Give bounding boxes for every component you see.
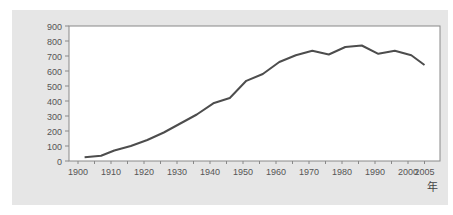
x-tick-label: 1970	[299, 167, 319, 177]
y-tick-label: 200	[47, 127, 62, 137]
y-tick-label: 500	[47, 82, 62, 92]
y-tick-label: 800	[47, 37, 62, 47]
x-unit-label: 年	[427, 180, 438, 193]
x-tick-label: 1990	[365, 167, 385, 177]
x-tick-label: 2005	[414, 167, 434, 177]
y-tick-label: 600	[47, 67, 62, 77]
x-tick-label: 1950	[233, 167, 253, 177]
x-axis: 1900191019201930194019501960197019801990…	[68, 161, 435, 177]
x-tick-label: 1900	[68, 167, 88, 177]
line-chart: 0100200300400500600700800900 19001910192…	[0, 0, 453, 215]
y-tick-label: 0	[57, 157, 62, 167]
y-tick-label: 900	[47, 22, 62, 32]
plot-area	[69, 26, 440, 161]
y-axis: 0100200300400500600700800900	[47, 22, 69, 167]
y-tick-label: 700	[47, 52, 62, 62]
x-tick-label: 1910	[101, 167, 121, 177]
x-tick-label: 1920	[134, 167, 154, 177]
x-tick-label: 1980	[332, 167, 352, 177]
x-tick-label: 1960	[266, 167, 286, 177]
x-tick-label: 1940	[200, 167, 220, 177]
y-tick-label: 400	[47, 97, 62, 107]
y-tick-label: 300	[47, 112, 62, 122]
y-tick-label: 100	[47, 142, 62, 152]
x-tick-label: 1930	[167, 167, 187, 177]
